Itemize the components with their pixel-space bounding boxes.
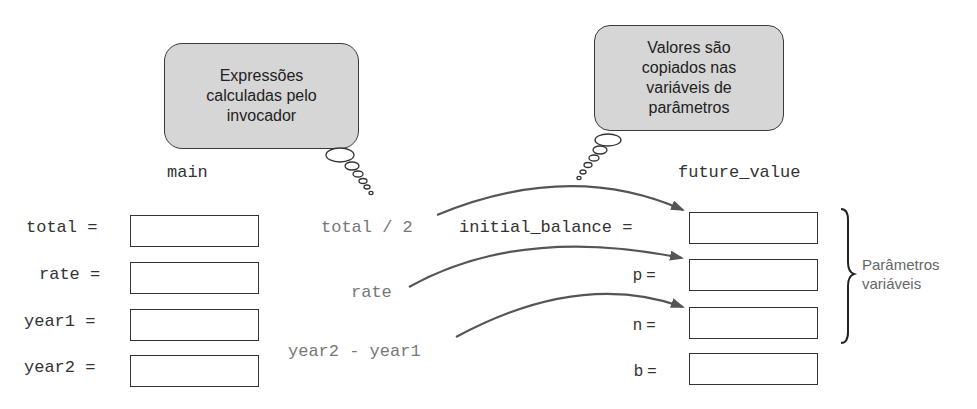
brace-label: Parâmetros variáveis [862, 255, 940, 293]
param-initial-balance-label: initial_balance = [459, 218, 632, 237]
brace-label-line-1: Parâmetros [862, 255, 940, 274]
param-n-box [689, 307, 818, 339]
main-var-year1-box [130, 309, 259, 341]
brace-label-line-2: variáveis [862, 274, 940, 293]
main-var-total-label: total = [26, 218, 97, 237]
param-initial-balance-box [689, 212, 818, 244]
expression-total-div-2: total / 2 [321, 218, 413, 237]
main-var-total-box [130, 215, 259, 247]
param-p-label: p = [633, 266, 656, 284]
thought-circles-caller [326, 148, 373, 195]
main-var-year2-label: year2 = [24, 358, 95, 377]
param-b-box [689, 353, 818, 385]
main-var-year2-box [130, 355, 259, 387]
main-var-rate-box [130, 262, 259, 294]
curly-brace-icon [841, 209, 854, 343]
arrow-total-to-initial-balance [437, 186, 683, 215]
flow-arrows [409, 186, 683, 337]
main-var-year1-label: year1 = [24, 312, 95, 331]
thought-circles-params [577, 134, 621, 180]
param-b-label: b = [634, 362, 657, 380]
future-value-title: future_value [678, 163, 800, 182]
param-n-label: n = [633, 316, 656, 334]
expression-year2-minus-year1: year2 - year1 [288, 342, 421, 361]
param-p-box [689, 259, 818, 291]
expression-rate: rate [351, 283, 392, 302]
main-var-rate-label: rate = [39, 265, 100, 284]
diagram-overlay [0, 0, 977, 409]
main-title: main [167, 163, 208, 182]
